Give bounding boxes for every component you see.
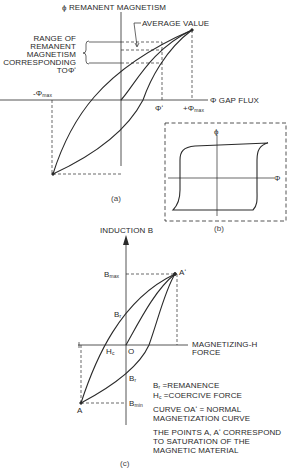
figure-b-axes <box>168 135 274 216</box>
figure-a-caption: (a) <box>111 194 121 203</box>
range-label-line-5: TOΦʹ <box>0 66 76 75</box>
phi-prime-label: Φʹ <box>155 104 163 113</box>
br-upper-label: Br <box>114 310 121 321</box>
gap-flux-axis-label: Φ GAP FLUX <box>210 96 259 105</box>
induction-axis-label: INDUCTION B <box>100 226 153 235</box>
figure-b-gap-flux-axis-label: Φ <box>274 174 280 183</box>
average-value-leader <box>134 23 141 46</box>
curve-note-line-1: CURVE OAʹ = NORMAL <box>153 405 241 414</box>
b-max-label: Bmax <box>104 270 119 281</box>
br-lower-label: Br <box>129 374 136 385</box>
saturation-note-line-3: MAGNETIC MATERIAL <box>153 446 239 455</box>
curve-note-line-2: MAGNETIZATION CURVE <box>153 414 250 423</box>
point-a-label: A <box>77 406 82 415</box>
average-value-label: AVERAGE VALUE <box>142 19 209 28</box>
figure-c-caption: (c) <box>120 459 130 468</box>
saturation-note-line-2: TO SATURATION OF THE <box>153 437 250 446</box>
figure-b-frame <box>165 123 286 221</box>
b-min-label: Bmin <box>129 399 143 410</box>
point-a-prime-label: Aʹ <box>179 268 186 277</box>
saturation-note-line-1: THE POINTS A, Aʹ CORRESPOND <box>153 428 281 437</box>
hc-label: Hc <box>106 347 115 358</box>
magnetizing-force-axis-label-2: FORCE <box>192 348 221 357</box>
figure-b-phi-axis-label: ϕ <box>214 127 219 136</box>
remanent-magnetism-axis-label: ϕ REMANENT MAGNETISM <box>62 3 166 12</box>
figure-b-square-loop <box>173 143 268 210</box>
legend-coercive-force: Hc =COERCIVE FORCE <box>153 391 242 402</box>
up-arrow-icon <box>123 235 129 245</box>
origin-label: O <box>128 347 134 356</box>
range-bracket <box>83 41 121 64</box>
pos-phi-max-label: +Φmax <box>183 104 204 115</box>
neg-phi-max-label: -Φmax <box>33 89 52 100</box>
figure-b-caption: (b) <box>214 224 224 233</box>
